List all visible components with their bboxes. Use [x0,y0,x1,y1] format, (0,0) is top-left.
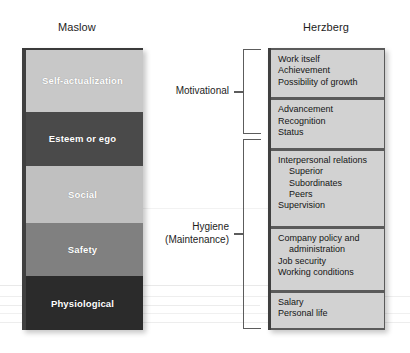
motivational-label-line-1: Motivational [176,85,229,98]
herzberg-factor-line: Interpersonal relations [278,155,380,166]
maslow-band: Physiological [22,276,143,330]
herzberg-factor-line: Supervision [278,200,380,211]
herzberg-factor-line: Recognition [278,116,380,127]
herzberg-factor-line: Salary [278,297,380,308]
maslow-hierarchy-stack: Self-actualizationEsteem or egoSocialSaf… [22,48,143,330]
maslow-band: Safety [22,223,143,277]
motivational-bracket-stem [234,91,243,93]
maslow-band: Esteem or ego [22,112,143,167]
motivational-bracket-label: Motivational [176,85,229,98]
maslow-band-label: Esteem or ego [49,133,116,144]
herzberg-factor-line: Working conditions [278,267,380,278]
herzberg-factor-stack: Work itselfAchievementPossibility of gro… [268,48,385,330]
herzberg-factor-line: Company policy and [278,233,380,244]
maslow-band-label: Social [68,189,97,200]
maslow-band: Social [22,166,143,223]
hygiene-bracket [243,139,261,329]
herzberg-factor-line: Peers [278,189,380,200]
herzberg-factor-line: administration [278,244,380,255]
herzberg-box: Work itselfAchievementPossibility of gro… [268,48,385,99]
maslow-band-label: Self-actualization [42,75,123,86]
hygiene-bracket-stem [234,233,243,235]
herzberg-box: Interpersonal relationsSuperiorSubordina… [268,150,385,228]
herzberg-factor-line: Subordinates [278,178,380,189]
herzberg-factor-line: Job security [278,256,380,267]
herzberg-factor-line: Advancement [278,104,380,115]
herzberg-box: SalaryPersonal life [268,292,385,330]
maslow-band: Self-actualization [22,50,143,112]
herzberg-factor-line: Personal life [278,308,380,319]
herzberg-column-title: Herzberg [303,21,349,33]
maslow-herzberg-comparison-figure: Maslow Herzberg Self-actualizationEsteem… [0,0,410,353]
herzberg-box: AdvancementRecognitionStatus [268,99,385,149]
hygiene-label-line-2: (Maintenance) [165,234,229,247]
herzberg-factor-line: Possibility of growth [278,77,380,88]
maslow-band-label: Safety [68,244,97,255]
herzberg-box: Company policy andadministrationJob secu… [268,228,385,292]
herzberg-factor-line: Achievement [278,65,380,76]
maslow-column-title: Maslow [58,21,96,33]
hygiene-label-line-1: Hygiene [165,221,229,234]
maslow-band-label: Physiological [51,298,114,309]
herzberg-factor-line: Superior [278,166,380,177]
herzberg-factor-line: Work itself [278,54,380,65]
motivational-bracket [243,49,261,134]
hygiene-bracket-label: Hygiene (Maintenance) [165,221,229,246]
herzberg-factor-line: Status [278,127,380,138]
